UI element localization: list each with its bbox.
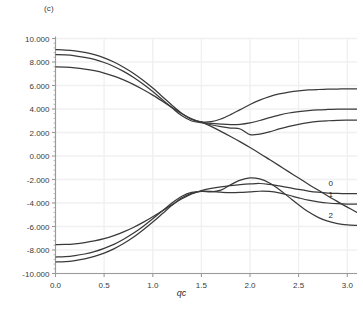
curve-lower-branch-b [56,191,358,257]
y-tick-label: 6.000 [29,82,50,91]
y-tick-label: -4.000 [27,199,50,208]
curve-annotation-0: 0 [328,179,333,188]
y-tick-label: 4.000 [29,105,50,114]
y-tick-label: 0.000 [29,152,50,161]
y-tick-label: -8.000 [27,246,50,255]
y-tick-label: 10.000 [25,35,50,44]
y-tick-label: 8.000 [29,58,50,67]
y-tick-label: -6.000 [27,223,50,232]
y-tick-label: 2.000 [29,129,50,138]
figure-panel-c: (c) -10.000-8.000-6.000-4.000-2.0000.000… [0,0,363,309]
chart-canvas: -10.000-8.000-6.000-4.000-2.0000.0002.00… [0,0,363,309]
x-axis-title: qc [0,288,363,298]
y-tick-label: -10.000 [22,270,50,279]
curve-annotation-1: 1 [328,190,333,199]
curve-annotation-2: 2 [328,211,333,220]
curve-crossing-branch [201,122,357,212]
y-tick-label: -2.000 [27,176,50,185]
